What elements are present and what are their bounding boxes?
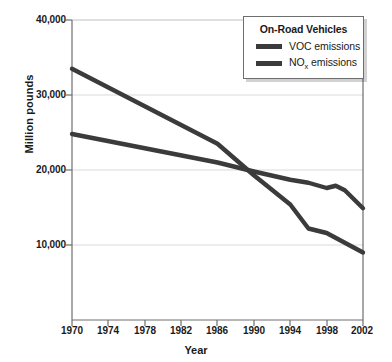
- x-tick-label-1978: 1978: [125, 325, 165, 336]
- y-axis-title: Million pounds: [23, 49, 35, 179]
- legend-swatch-voc: [256, 44, 282, 49]
- x-tick-label-1982: 1982: [161, 325, 201, 336]
- x-tick-label-1986: 1986: [197, 325, 237, 336]
- legend-swatch-nox: [256, 61, 282, 66]
- legend-label-nox-suffix: emissions: [308, 56, 357, 68]
- y-tick-label-20000: 20,000: [18, 164, 66, 175]
- legend-label-nox: NOx emissions: [289, 56, 357, 71]
- x-axis-title: Year: [0, 344, 392, 356]
- legend-item-nox: NOx emissions: [256, 56, 355, 71]
- x-tick-label-2002: 2002: [342, 325, 382, 336]
- legend-title: On-Road Vehicles: [252, 23, 355, 35]
- y-tick-label-40000: 40,000: [18, 14, 66, 25]
- legend-item-voc: VOC emissions: [256, 40, 355, 52]
- x-tick-label-1998: 1998: [307, 325, 347, 336]
- x-tick-label-1990: 1990: [234, 325, 274, 336]
- emissions-line-chart: Million pounds 40,000 30,000 20,000 10,0…: [0, 0, 392, 362]
- series-lines: [72, 69, 363, 253]
- x-tick-label-1974: 1974: [88, 325, 128, 336]
- chart-legend: On-Road Vehicles VOC emissions NOx emiss…: [243, 16, 364, 79]
- legend-label-nox-prefix: NO: [289, 56, 305, 68]
- y-tick-label-30000: 30,000: [18, 89, 66, 100]
- y-tick-label-10000: 10,000: [18, 239, 66, 250]
- legend-label-voc: VOC emissions: [289, 40, 360, 52]
- x-tick-label-1970: 1970: [52, 325, 92, 336]
- x-tick-label-1994: 1994: [270, 325, 310, 336]
